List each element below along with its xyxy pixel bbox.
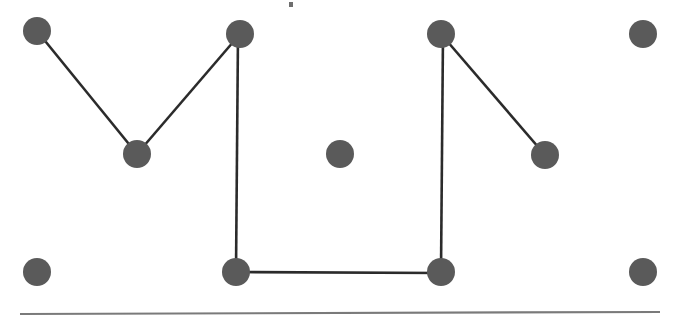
baseline-layer xyxy=(20,312,660,314)
graph-edge-n5-n2 xyxy=(137,34,240,154)
graph-node-bottom-left xyxy=(23,258,51,286)
graph-edge-n1-n5 xyxy=(37,31,137,154)
graph-edge-n10-n3 xyxy=(441,34,443,272)
graph-edge-n2-n9 xyxy=(236,34,238,272)
graph-node-bottom-mid-right xyxy=(427,258,455,286)
graph-node-top-mid-left xyxy=(226,20,254,48)
graph-node-bottom-right xyxy=(629,258,657,286)
graph-node-top-left xyxy=(23,17,51,45)
node-link-diagram xyxy=(0,0,679,328)
artifact-speck-mark xyxy=(289,2,293,7)
graph-node-top-right xyxy=(629,20,657,48)
diagram-canvas xyxy=(0,0,679,328)
graph-node-mid-right xyxy=(531,141,559,169)
graph-node-valley-left xyxy=(123,140,151,168)
baseline-rule xyxy=(20,312,660,314)
graph-node-center-isolated xyxy=(326,140,354,168)
graph-node-top-mid-right xyxy=(427,20,455,48)
graph-edge-n9-n10 xyxy=(236,272,441,273)
edges-layer xyxy=(37,31,545,273)
specks-layer xyxy=(289,2,293,7)
nodes-layer xyxy=(23,17,657,286)
graph-edge-n3-n7 xyxy=(441,34,545,155)
graph-node-bottom-mid-left xyxy=(222,258,250,286)
